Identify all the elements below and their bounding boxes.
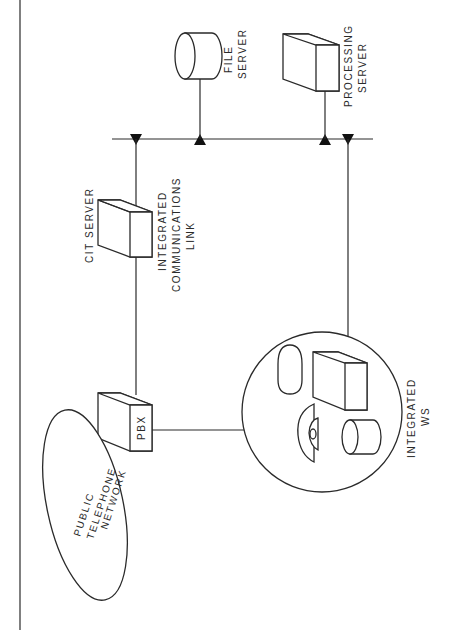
pbx-label: PBX xyxy=(136,415,147,440)
cit-server-label: CIT SERVER xyxy=(84,187,95,263)
icl-label-line-1: INTEGRATED xyxy=(157,191,168,271)
network-diagram: PBX CIT SERVER INTEGRATED COMMUNICATIONS… xyxy=(0,0,458,630)
processing-server-label-line-1: PROCESSING xyxy=(343,24,354,107)
file-server-icon xyxy=(175,33,222,79)
file-server-label-line-1: FILE xyxy=(223,45,234,73)
file-server-label-line-2: SERVER xyxy=(237,28,248,79)
icl-label-line-3: LINK xyxy=(185,221,196,250)
processing-server-icon xyxy=(283,34,339,91)
ws-mouse-icon xyxy=(278,345,302,394)
processing-server-label-line-2: SERVER xyxy=(357,42,368,93)
integrated-ws-label-line-1: INTEGRATED xyxy=(406,378,417,458)
integrated-ws-label-line-2: WS xyxy=(420,407,431,426)
cit-server-icon xyxy=(98,200,152,257)
icl-label-line-2: COMMUNICATIONS xyxy=(171,177,182,292)
ws-disk-icon xyxy=(342,420,381,454)
